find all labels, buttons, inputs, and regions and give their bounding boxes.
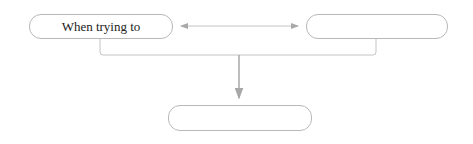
node-left[interactable]: When trying to	[29, 14, 173, 39]
node-bottom[interactable]	[168, 105, 312, 131]
merge-connector	[100, 38, 376, 55]
node-right[interactable]	[306, 14, 448, 39]
node-left-label: When trying to	[62, 19, 141, 35]
